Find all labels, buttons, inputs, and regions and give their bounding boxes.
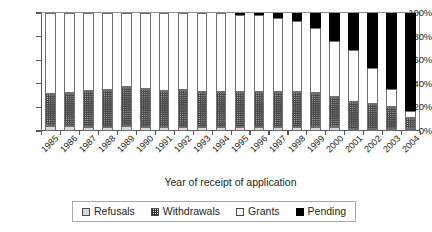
x-axis-tick-mark [268, 131, 269, 135]
bar-segment-pending-1999 [310, 13, 321, 28]
x-axis-tick-mark [174, 131, 175, 135]
x-axis-tick-mark [401, 131, 402, 135]
bar-segment-withdrawals-1990 [140, 89, 151, 128]
bar-segment-grants-1994 [216, 13, 227, 92]
x-axis-tick-mark [363, 131, 364, 135]
bar-segment-withdrawals-2001 [348, 102, 359, 129]
bar-segment-pending-2000 [329, 13, 340, 41]
bar-1992 [178, 13, 189, 131]
bar-segment-refusals-1990 [140, 127, 151, 131]
bar-2003 [386, 13, 397, 131]
bar-1986 [64, 13, 75, 131]
bar-segment-grants-1991 [159, 13, 170, 91]
bar-segment-refusals-1999 [310, 127, 321, 131]
bar-segment-grants-1995 [235, 15, 246, 92]
bar-segment-withdrawals-1999 [310, 93, 321, 127]
pending-swatch [296, 208, 304, 216]
x-axis-tick-mark [287, 131, 288, 135]
bar-segment-refusals-1998 [292, 127, 303, 131]
bar-segment-refusals-1994 [216, 127, 227, 131]
bar-segment-withdrawals-2004 [405, 118, 416, 129]
x-axis-tick-mark [155, 131, 156, 135]
x-axis-tick-mark [249, 131, 250, 135]
bar-segment-pending-2003 [386, 13, 397, 89]
bar-1995 [235, 13, 246, 131]
bar-segment-grants-1986 [64, 13, 75, 93]
bar-1998 [292, 13, 303, 131]
bar-segment-pending-2001 [348, 13, 359, 50]
legend-item-label: Pending [308, 206, 347, 217]
bar-segment-grants-2004 [405, 111, 416, 118]
bar-segment-pending-2004 [405, 13, 416, 111]
bar-segment-refusals-1989 [121, 126, 132, 131]
bar-1985 [45, 13, 56, 131]
bar-segment-refusals-1992 [178, 127, 189, 131]
x-axis-tick-mark [325, 131, 326, 135]
legend-item-label: Refusals [94, 206, 135, 217]
chart-legend: RefusalsWithdrawalsGrantsPending [72, 201, 356, 222]
bar-segment-pending-2002 [367, 13, 378, 68]
bar-1994 [216, 13, 227, 131]
bar-segment-refusals-1987 [83, 127, 94, 131]
bar-segment-withdrawals-1995 [235, 92, 246, 127]
bar-segment-refusals-1988 [102, 127, 113, 131]
bar-segment-grants-1999 [310, 28, 321, 93]
bar-series-layer [41, 13, 420, 131]
legend-item-refusals[interactable]: Refusals [82, 206, 135, 217]
bar-segment-grants-1992 [178, 13, 189, 90]
x-axis-tick-mark [60, 131, 61, 135]
bar-segment-withdrawals-1991 [159, 91, 170, 128]
bar-segment-withdrawals-2000 [329, 97, 340, 128]
refusals-swatch [82, 208, 90, 216]
x-axis-tick-mark [136, 131, 137, 135]
withdrawals-swatch [151, 208, 159, 216]
bar-segment-refusals-1985 [45, 126, 56, 131]
bar-segment-withdrawals-1992 [178, 90, 189, 128]
bar-1991 [159, 13, 170, 131]
percent-stacked-bar-chart: 0%20%40%60%80%100% 198519861987198819891… [0, 0, 432, 232]
x-axis-tick-mark [79, 131, 80, 135]
bar-segment-grants-1987 [83, 13, 94, 91]
bar-segment-withdrawals-1987 [83, 91, 94, 128]
x-axis-tick-mark [193, 131, 194, 135]
x-axis-tick-mark [98, 131, 99, 135]
bar-segment-refusals-2001 [348, 129, 359, 131]
x-axis-tick-mark [306, 131, 307, 135]
bar-segment-grants-1997 [273, 18, 284, 92]
bar-segment-grants-2001 [348, 50, 359, 102]
bar-1996 [254, 13, 265, 131]
legend-item-pending[interactable]: Pending [296, 206, 347, 217]
x-axis-tick-mark [117, 131, 118, 135]
bar-segment-withdrawals-2002 [367, 104, 378, 129]
bar-segment-withdrawals-1989 [121, 87, 132, 126]
legend-item-grants[interactable]: Grants [236, 206, 280, 217]
bar-segment-refusals-1991 [159, 127, 170, 131]
bar-segment-refusals-2000 [329, 127, 340, 131]
bar-1997 [273, 13, 284, 131]
legend-item-label: Grants [248, 206, 280, 217]
x-axis-tick-mark [41, 131, 42, 135]
grants-swatch [236, 208, 244, 216]
bar-segment-withdrawals-1985 [45, 94, 56, 126]
bar-1999 [310, 13, 321, 131]
x-axis-tick-mark [231, 131, 232, 135]
bar-segment-refusals-2004 [405, 129, 416, 131]
x-axis-title: Year of receipt of application [41, 176, 420, 188]
bar-segment-withdrawals-1988 [102, 90, 113, 128]
bar-segment-grants-1990 [140, 13, 151, 89]
x-axis-tick-mark [212, 131, 213, 135]
bar-segment-grants-1998 [292, 21, 303, 92]
bar-segment-refusals-1996 [254, 127, 265, 131]
bar-segment-refusals-1993 [197, 127, 208, 131]
bar-1987 [83, 13, 94, 131]
bar-segment-withdrawals-1986 [64, 93, 75, 126]
bar-segment-refusals-2002 [367, 129, 378, 131]
x-axis-tick-mark [344, 131, 345, 135]
bar-2001 [348, 13, 359, 131]
bar-2002 [367, 13, 378, 131]
bar-segment-grants-1988 [102, 13, 113, 90]
bar-segment-grants-1985 [45, 13, 56, 94]
bar-segment-withdrawals-2003 [386, 107, 397, 128]
bar-segment-refusals-2003 [386, 129, 397, 131]
legend-item-withdrawals[interactable]: Withdrawals [151, 206, 220, 217]
